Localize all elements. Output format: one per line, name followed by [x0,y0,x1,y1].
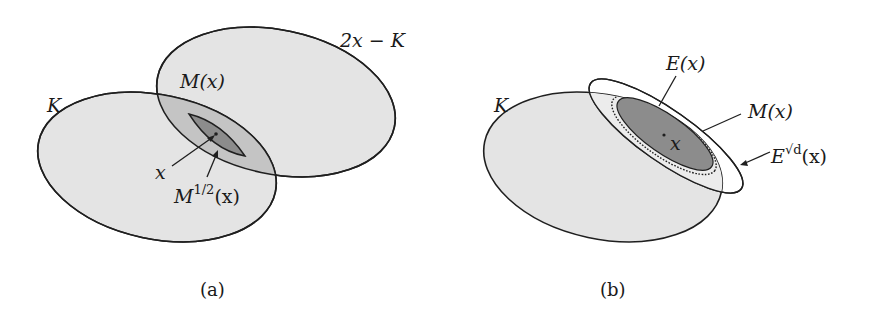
panel-b: E(x) M(x) x K E√d(x) (b) [470,52,827,300]
label-E: E(x) [665,52,705,74]
panel-a: K 2x − K M(x) x M1/2(x) (a) [24,6,410,300]
caption-a: (a) [200,279,225,300]
label-E-sqrt-d: E√d(x) [770,142,827,167]
label-2x-minus-K: 2x − K [339,29,407,51]
label-M-b: M(x) [747,100,793,122]
label-K-b: K [493,94,510,116]
label-K-a: K [46,94,63,116]
label-x-a: x [155,161,166,183]
label-x-b: x [670,132,681,154]
pointer-E [659,76,676,106]
pointer-E-sqrt-d [743,152,770,164]
figure: K 2x − K M(x) x M1/2(x) (a) E(x) M(x) x … [0,0,892,320]
label-M-a: M(x) [179,70,225,92]
center-point-x-b [662,133,665,136]
pointer-M [703,114,741,131]
caption-b: (b) [600,279,626,300]
